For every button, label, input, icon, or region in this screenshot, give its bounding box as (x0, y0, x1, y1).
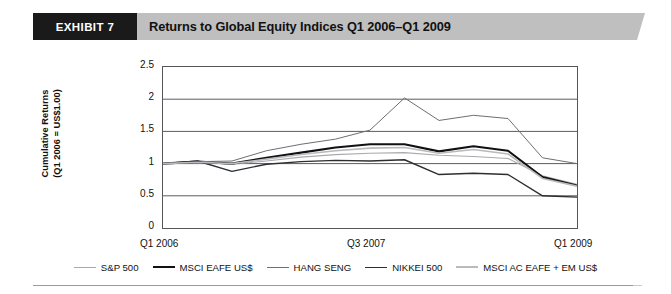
exhibit-header: EXHIBIT 7 Returns to Global Equity Indic… (33, 13, 637, 40)
footer-rule (33, 285, 633, 286)
legend-label: HANG SENG (294, 262, 352, 273)
legend-item[interactable]: HANG SENG (267, 262, 352, 273)
line-chart-svg (163, 67, 577, 228)
y-axis-tick-label: 1 (128, 156, 154, 167)
x-axis-tick-label: Q1 2009 (554, 238, 592, 249)
plot-area (162, 66, 578, 229)
exhibit-figure: EXHIBIT 7 Returns to Global Equity Indic… (0, 0, 671, 294)
exhibit-number-label: EXHIBIT 7 (33, 13, 137, 40)
exhibit-title: Returns to Global Equity Indices Q1 2006… (149, 13, 451, 40)
legend-item[interactable]: NIKKEI 500 (365, 262, 442, 273)
chart-legend: S&P 500MSCI EAFE US$HANG SENGNIKKEI 500M… (0, 258, 671, 276)
chart-area: Cumulative Returns(Q1 2006 = US$1.00) 2.… (0, 50, 671, 240)
y-axis-tick-label: 0 (128, 220, 154, 231)
y-axis-tick-label: 2 (128, 91, 154, 102)
y-axis-title-line: (Q1 2006 = US$1.00) (51, 59, 63, 209)
y-axis-tick-label: 0.5 (128, 188, 154, 199)
legend-item[interactable]: MSCI EAFE US$ (153, 262, 253, 273)
legend-item[interactable]: MSCI AC EAFE + EM US$ (456, 262, 597, 273)
legend-swatch-line (456, 266, 478, 268)
legend-swatch-line (267, 267, 289, 268)
legend-label: NIKKEI 500 (392, 262, 442, 273)
legend-label: S&P 500 (101, 262, 139, 273)
y-axis-tick-label: 2.5 (128, 59, 154, 70)
y-axis-title-line: Cumulative Returns (40, 59, 52, 209)
legend-swatch-line (365, 267, 387, 268)
legend-swatch-line (74, 267, 96, 268)
x-axis-tick-label: Q1 2006 (140, 238, 178, 249)
legend-swatch-line (153, 266, 175, 268)
legend-label: MSCI AC EAFE + EM US$ (483, 262, 597, 273)
y-axis-title: Cumulative Returns(Q1 2006 = US$1.00) (40, 59, 63, 209)
series-line-nikkei-500 (163, 160, 577, 197)
x-axis-tick-label: Q3 2007 (347, 238, 385, 249)
legend-label: MSCI EAFE US$ (180, 262, 253, 273)
legend-item[interactable]: S&P 500 (74, 262, 139, 273)
y-axis-tick-label: 1.5 (128, 123, 154, 134)
